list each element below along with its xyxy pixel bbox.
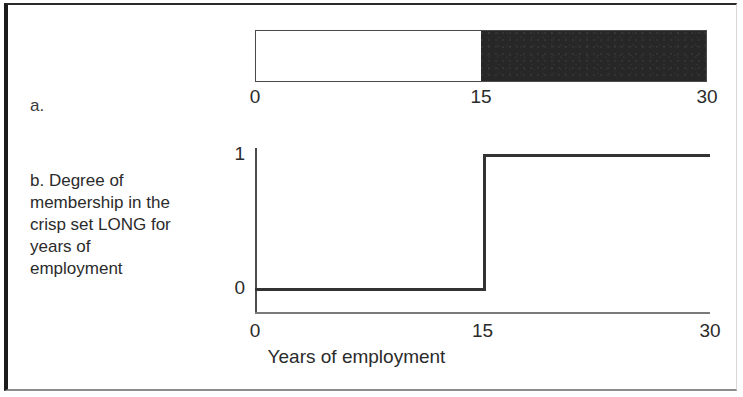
bar-tick-label-0: 0 [250,86,261,108]
y-tick-label-0: 0 [234,277,245,299]
panel-a: a. 0 15 30 [0,0,743,140]
x-tick-label-0: 0 [250,320,261,342]
crisp-set-bar [255,30,707,82]
y-tick-label-1: 1 [234,143,245,165]
x-axis-line [255,312,710,314]
bar-tick-label-30: 30 [696,86,717,108]
panel-a-letter: a. [30,97,44,114]
crisp-bar-segment-long [481,31,706,81]
step-segment-low [255,288,483,291]
x-tick-label-30: 30 [699,320,720,342]
step-segment-high [483,154,711,157]
panel-b: b. Degree of membership in the crisp set… [0,140,743,397]
crisp-bar-segment-not-long [256,31,481,81]
x-axis-title-text: Years of employment [268,346,446,367]
figure-page: a. 0 15 30 b. Degree of membership in th… [0,0,743,397]
bar-tick-label-15: 15 [470,86,491,108]
step-segment-rise [483,154,486,291]
x-tick-label-15: 15 [472,320,493,342]
x-axis-title: Years of employment [0,346,743,368]
step-function-plot: 1 0 0 15 30 Years of employment [0,140,743,370]
